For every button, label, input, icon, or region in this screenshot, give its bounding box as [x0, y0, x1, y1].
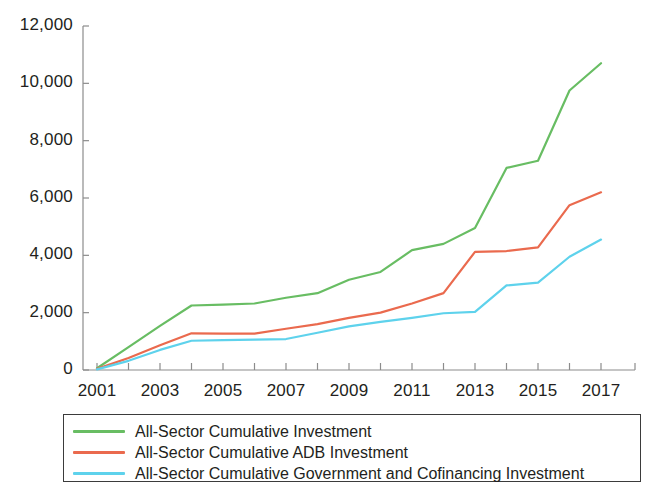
legend-item: All-Sector Cumulative Investment: [73, 421, 372, 442]
legend-color-swatch: [73, 451, 125, 454]
y-axis-tick-label: 2,000: [29, 302, 73, 322]
legend-label: All-Sector Cumulative Government and Cof…: [135, 466, 584, 482]
series-line-3: [97, 240, 601, 370]
x-axis-tick-label: 2017: [561, 381, 641, 401]
legend-label: All-Sector Cumulative ADB Investment: [135, 445, 408, 461]
y-axis-tick-label: 8,000: [29, 130, 73, 150]
legend-color-swatch: [73, 430, 125, 433]
legend-item: All-Sector Cumulative ADB Investment: [73, 442, 408, 463]
legend-label: All-Sector Cumulative Investment: [135, 424, 372, 440]
y-axis-tick-label: 0: [63, 359, 73, 379]
y-axis-tick-label: 6,000: [29, 187, 73, 207]
chart-figure: 02,0004,0006,0008,00010,00012,000 200120…: [0, 0, 647, 483]
y-axis-tick-label: 10,000: [20, 72, 73, 92]
line-chart-plot: [0, 0, 647, 483]
legend-color-swatch: [73, 472, 125, 475]
series-line-1: [97, 63, 601, 368]
chart-legend: All-Sector Cumulative InvestmentAll-Sect…: [63, 414, 641, 482]
legend-item: All-Sector Cumulative Government and Cof…: [73, 463, 584, 483]
y-axis-tick-label: 12,000: [20, 15, 73, 35]
y-axis-tick-label: 4,000: [29, 244, 73, 264]
